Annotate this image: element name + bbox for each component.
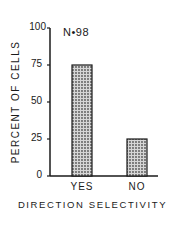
bar-yes — [72, 65, 92, 176]
bar-no — [127, 139, 147, 176]
x-tick-yes: YES — [62, 181, 102, 192]
x-tick-no: NO — [117, 181, 157, 192]
y-tick-0: 0 — [12, 169, 42, 180]
y-tick-75: 75 — [12, 58, 42, 69]
sample-size-annotation: N•98 — [63, 26, 89, 38]
x-axis-label: DIRECTION SELECTIVITY — [0, 199, 185, 210]
y-tick-100: 100 — [16, 21, 46, 32]
y-tick-50: 50 — [12, 95, 42, 106]
bars — [72, 65, 147, 176]
y-tick-25: 25 — [12, 132, 42, 143]
